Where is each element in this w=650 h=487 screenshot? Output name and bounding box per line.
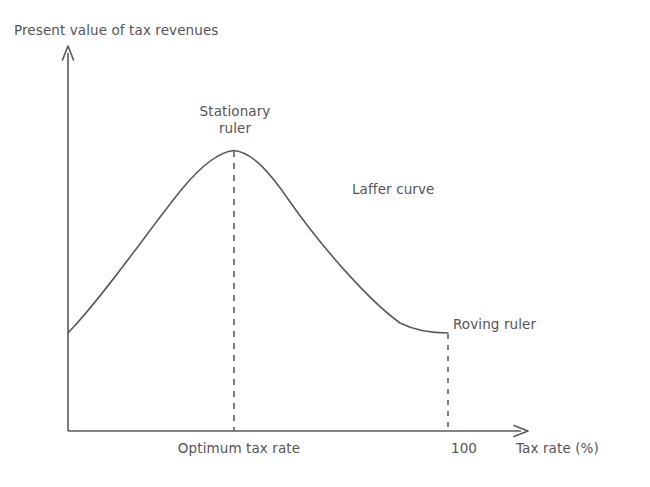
stationary-ruler-annotation: Stationary ruler — [200, 103, 271, 137]
y-axis-title: Present value of tax revenues — [14, 22, 218, 39]
stationary-ruler-line1: Stationary — [200, 103, 271, 120]
laffer-curve-figure — [0, 0, 650, 487]
laffer-curve-path — [68, 151, 448, 334]
x-axis — [68, 426, 528, 437]
x-axis-tick-label-100: 100 — [451, 440, 477, 457]
laffer-curve-annotation: Laffer curve — [352, 181, 434, 198]
x-axis-title: Tax rate (%) — [516, 440, 599, 457]
roving-ruler-annotation: Roving ruler — [453, 316, 536, 333]
y-axis — [63, 46, 74, 431]
optimum-tax-rate-label: Optimum tax rate — [178, 440, 300, 457]
stationary-ruler-line2: ruler — [200, 120, 271, 137]
